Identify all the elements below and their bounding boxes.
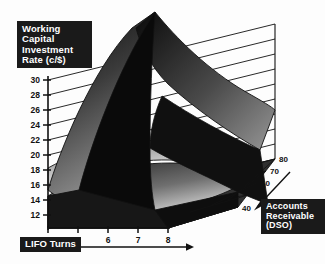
- z-tick-label: 22: [31, 135, 41, 145]
- y-tick-label: 40: [242, 204, 251, 213]
- z-axis-tick-labels: 30 28 26 24 22 20 18 16 14 12: [31, 75, 41, 220]
- y-axis-title-line: (DSO): [266, 221, 322, 231]
- x-tick-label: 6: [106, 235, 111, 245]
- y-axis-title: Accounts Receivable (DSO): [261, 199, 325, 234]
- y-tick-label: 80: [279, 155, 288, 164]
- y-tick-label: 70: [270, 167, 279, 176]
- z-tick-label: 28: [31, 90, 41, 100]
- surface-chart: 30 28 26 24 22 20 18 16 14 12 4 5 6 7: [0, 0, 325, 264]
- z-tick-label: 12: [31, 210, 41, 220]
- z-tick-label: 24: [31, 120, 41, 130]
- z-tick-label: 20: [31, 150, 41, 160]
- z-tick-label: 30: [31, 75, 41, 85]
- z-axis-title-line: Rate (c/$): [22, 55, 88, 65]
- y-tick-label: 60: [261, 179, 270, 188]
- z-axis-title: Working Capital Investment Rate (c/$): [17, 21, 92, 68]
- x-tick-label: 7: [136, 235, 141, 245]
- z-tick-label: 18: [31, 165, 41, 175]
- z-tick-label: 26: [31, 105, 41, 115]
- z-axis-title-line: Capital: [22, 34, 88, 44]
- x-axis-title: LIFO Turns: [20, 237, 81, 252]
- z-tick-label: 16: [31, 180, 41, 190]
- x-tick-label: 8: [166, 235, 171, 245]
- z-tick-label: 14: [31, 195, 41, 205]
